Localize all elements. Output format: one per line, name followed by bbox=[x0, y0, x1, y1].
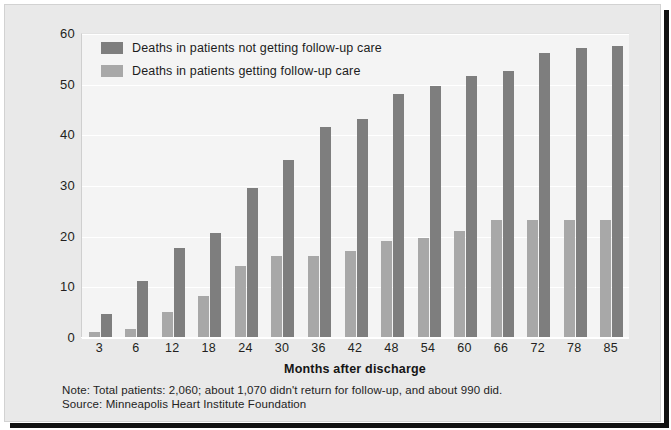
bar-not-getting-followup-care bbox=[576, 48, 587, 337]
bar-not-getting-followup-care bbox=[612, 46, 623, 337]
x-axis-tick-label: 78 bbox=[556, 341, 593, 355]
bar-not-getting-followup-care bbox=[210, 233, 221, 337]
footnote-source: Source: Minneapolis Heart Institute Foun… bbox=[62, 397, 622, 411]
chart-legend: Deaths in patients not getting follow-up… bbox=[101, 38, 401, 84]
y-axis-tick-label: 60 bbox=[17, 26, 75, 41]
x-axis-tick-label: 54 bbox=[410, 341, 447, 355]
legend-entry: Deaths in patients not getting follow-up… bbox=[101, 38, 401, 57]
legend-entry: Deaths in patients getting follow-up car… bbox=[101, 61, 401, 80]
bar-getting-followup-care bbox=[345, 251, 356, 337]
x-axis-tick-label: 12 bbox=[154, 341, 191, 355]
bar-getting-followup-care bbox=[381, 241, 392, 337]
x-axis-tick-label: 30 bbox=[264, 341, 301, 355]
x-axis-tick-label: 6 bbox=[118, 341, 155, 355]
chart-card: 0102030405060 Deaths in patients not get… bbox=[4, 4, 661, 422]
bar-getting-followup-care bbox=[564, 220, 575, 337]
x-axis-tick-label: 42 bbox=[337, 341, 374, 355]
footnote-block: Note: Total patients: 2,060; about 1,070… bbox=[62, 383, 622, 411]
x-axis-tick-label: 72 bbox=[519, 341, 556, 355]
x-axis-baseline bbox=[81, 337, 629, 338]
bar-getting-followup-care bbox=[271, 256, 282, 337]
bar-getting-followup-care bbox=[491, 220, 502, 337]
x-axis-title: Months after discharge bbox=[81, 362, 629, 376]
y-axis-tick-label: 40 bbox=[17, 127, 75, 142]
gridline bbox=[82, 338, 629, 339]
bar-getting-followup-care bbox=[198, 296, 209, 337]
legend-label: Deaths in patients not getting follow-up… bbox=[132, 41, 382, 55]
x-axis-tick-label: 48 bbox=[373, 341, 410, 355]
bar-getting-followup-care bbox=[600, 220, 611, 337]
x-axis-tick-label: 3 bbox=[81, 341, 118, 355]
x-axis-tick-label: 60 bbox=[446, 341, 483, 355]
card-shadow-right bbox=[664, 10, 669, 428]
legend-swatch-icon bbox=[101, 42, 123, 54]
bar-getting-followup-care bbox=[454, 231, 465, 337]
bar-getting-followup-care bbox=[162, 312, 173, 337]
y-axis-tick-label: 50 bbox=[17, 76, 75, 91]
legend-swatch-icon bbox=[101, 65, 123, 77]
x-axis-tick-label: 18 bbox=[191, 341, 228, 355]
footnote-note: Note: Total patients: 2,060; about 1,070… bbox=[62, 383, 622, 397]
bar-not-getting-followup-care bbox=[320, 127, 331, 337]
bar-getting-followup-care bbox=[418, 238, 429, 337]
bar-not-getting-followup-care bbox=[539, 53, 550, 337]
bar-getting-followup-care bbox=[125, 329, 136, 337]
bar-getting-followup-care bbox=[235, 266, 246, 337]
x-axis-tick-label: 66 bbox=[483, 341, 520, 355]
x-axis-tick-label: 36 bbox=[300, 341, 337, 355]
bar-getting-followup-care bbox=[308, 256, 319, 337]
chart-screenshot: 0102030405060 Deaths in patients not get… bbox=[0, 0, 671, 430]
y-axis-tick-label: 20 bbox=[17, 228, 75, 243]
bar-getting-followup-care bbox=[527, 220, 538, 337]
bar-not-getting-followup-care bbox=[283, 160, 294, 337]
y-axis-tick-label: 0 bbox=[17, 330, 75, 345]
legend-label: Deaths in patients getting follow-up car… bbox=[132, 64, 361, 78]
bar-not-getting-followup-care bbox=[357, 119, 368, 337]
x-axis-tick-label: 24 bbox=[227, 341, 264, 355]
y-axis-tick-label: 10 bbox=[17, 279, 75, 294]
x-axis: 3612182430364248546066727885 bbox=[81, 341, 629, 361]
card-shadow-bottom bbox=[10, 423, 669, 428]
bar-not-getting-followup-care bbox=[393, 94, 404, 337]
bar-not-getting-followup-care bbox=[137, 281, 148, 337]
y-axis: 0102030405060 bbox=[11, 5, 75, 423]
bar-not-getting-followup-care bbox=[174, 248, 185, 337]
bar-not-getting-followup-care bbox=[466, 76, 477, 337]
bar-not-getting-followup-care bbox=[101, 314, 112, 337]
bar-not-getting-followup-care bbox=[247, 188, 258, 337]
bar-not-getting-followup-care bbox=[430, 86, 441, 337]
y-axis-tick-label: 30 bbox=[17, 178, 75, 193]
x-axis-tick-label: 85 bbox=[592, 341, 629, 355]
bar-not-getting-followup-care bbox=[503, 71, 514, 337]
bar-getting-followup-care bbox=[89, 332, 100, 337]
